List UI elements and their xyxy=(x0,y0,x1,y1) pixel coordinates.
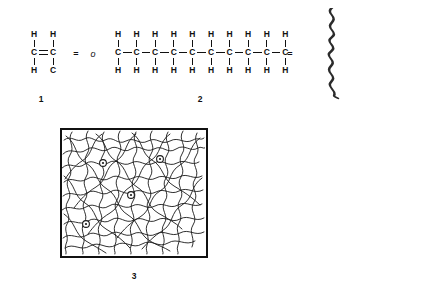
structure-2-bond-top xyxy=(266,40,267,47)
structure-2-bond-bottom xyxy=(248,58,249,65)
structure-2-top-hydrogen: H xyxy=(132,30,141,39)
structure-2-bond-top xyxy=(211,40,212,47)
structure-2-carbon-carbon-bond xyxy=(142,52,151,53)
structure-2-bond-bottom xyxy=(118,58,119,65)
structure-2-top-hydrogen: H xyxy=(207,30,216,39)
structure-2-carbon: C xyxy=(151,48,160,57)
structure-2-carbon-carbon-bond xyxy=(160,52,169,53)
structure-2-bond-top xyxy=(285,40,286,47)
structure-2-carbon-carbon-bond xyxy=(272,52,281,53)
structure-2-bond-top xyxy=(248,40,249,47)
structure-2-top-hydrogen: H xyxy=(225,30,234,39)
structure-2-carbon-carbon-bond xyxy=(197,52,206,53)
structure-2-top-hydrogen: H xyxy=(281,30,290,39)
structure-2-carbon-carbon-bond xyxy=(179,52,188,53)
structure-1-bond-top-right xyxy=(53,40,54,47)
structure-2-bond-bottom xyxy=(285,58,286,65)
structure-2-top-hydrogen: H xyxy=(244,30,253,39)
structure-2-figure-number: 2 xyxy=(190,94,210,104)
structure-2-carbon: C xyxy=(188,48,197,57)
structure-2-bond-top xyxy=(229,40,230,47)
polymer-chain-squiggle xyxy=(296,8,420,116)
structure-2-carbon: C xyxy=(169,48,178,57)
structure-2-top-hydrogen: H xyxy=(188,30,197,39)
structure-2-bottom-hydrogen: H xyxy=(188,66,197,75)
structure-2-carbon: C xyxy=(244,48,253,57)
structure-2-bond-bottom xyxy=(192,58,193,65)
structure-1-right-carbon: C xyxy=(49,48,58,57)
structure-2-bond-top xyxy=(192,40,193,47)
structure-2-bond-top xyxy=(118,40,119,47)
structure-2-bond-bottom xyxy=(211,58,212,65)
structure-1-left-carbon: C xyxy=(30,48,39,57)
structure-2-bottom-hydrogen: H xyxy=(244,66,253,75)
structure-1-equals-sign: = xyxy=(69,50,83,59)
structure-2-top-hydrogen: H xyxy=(169,30,178,39)
structure-2-top-hydrogen: H xyxy=(151,30,160,39)
structure-2-bond-bottom xyxy=(173,58,174,65)
structure-2-carbon: C xyxy=(207,48,216,57)
structure-2-carbon: C xyxy=(225,48,234,57)
structure-1-bond-top-left xyxy=(34,40,35,47)
structure-2-carbon-carbon-bond xyxy=(123,52,132,53)
structure-2-bond-top xyxy=(155,40,156,47)
structure-2-bottom-hydrogen: H xyxy=(169,66,178,75)
structure-2-carbon: C xyxy=(114,48,123,57)
polymer-network-box xyxy=(60,128,208,258)
structure-1-figure-number: 1 xyxy=(31,94,51,104)
structure-1-bottom-right-carbon: C xyxy=(49,66,58,75)
structure-1-top-left-hydrogen: H xyxy=(30,30,39,39)
structure-2-bottom-hydrogen: H xyxy=(151,66,160,75)
structure-2-bottom-hydrogen: H xyxy=(114,66,123,75)
structure-2-bond-bottom xyxy=(266,58,267,65)
structure-2-bond-bottom xyxy=(229,58,230,65)
structure-2-bond-top xyxy=(173,40,174,47)
structure-2-carbon-carbon-bond xyxy=(216,52,225,53)
structure-2-bottom-hydrogen: H xyxy=(225,66,234,75)
entangled-chains-drawing xyxy=(62,130,205,255)
structure-2-equals-sign: = xyxy=(283,50,297,59)
structure-2-carbon: C xyxy=(262,48,271,57)
structure-2-top-hydrogen: H xyxy=(262,30,271,39)
structure-1-repeat-unit-glyph: o xyxy=(86,50,100,59)
structure-1-bond-bottom-left xyxy=(34,58,35,65)
structure-2-bottom-hydrogen: H xyxy=(207,66,216,75)
structure-1-bond-bottom-right xyxy=(53,58,54,65)
structure-2-carbon-carbon-bond xyxy=(253,52,262,53)
structure-1-double-bond-upper xyxy=(39,50,48,51)
structure-2-bond-top xyxy=(136,40,137,47)
structure-2-bottom-hydrogen: H xyxy=(132,66,141,75)
figure-canvas: H H C C H C = o 1 HCHHCHHCHHCHHCHHCHHCHH… xyxy=(0,0,426,289)
structure-2-bond-bottom xyxy=(136,58,137,65)
structure-2-carbon-carbon-bond xyxy=(235,52,244,53)
structure-2-bottom-hydrogen: H xyxy=(281,66,290,75)
structure-2-bottom-hydrogen: H xyxy=(262,66,271,75)
structure-1-top-right-hydrogen: H xyxy=(49,30,58,39)
structure-1-double-bond-lower xyxy=(39,54,48,55)
structure-2-carbon: C xyxy=(132,48,141,57)
structure-3-figure-number: 3 xyxy=(124,271,144,281)
structure-2-top-hydrogen: H xyxy=(114,30,123,39)
structure-2-bond-bottom xyxy=(155,58,156,65)
structure-1-bottom-left-hydrogen: H xyxy=(30,66,39,75)
